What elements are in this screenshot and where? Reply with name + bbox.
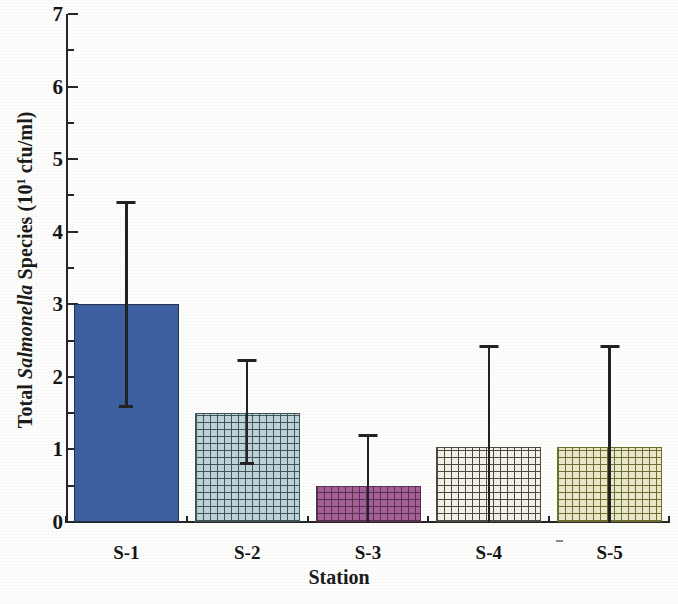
error-bar-stem-s-5 xyxy=(608,345,610,522)
y-tick-minor xyxy=(68,267,74,269)
y-axis-title-post: Species (10 xyxy=(14,185,36,285)
x-tick-minor xyxy=(548,516,550,523)
y-tick-minor xyxy=(68,122,74,124)
x-tick-minor xyxy=(668,516,670,523)
error-bar-stem-s-1 xyxy=(125,201,127,409)
scan-artifact-speck xyxy=(556,540,563,542)
x-tick-label-s-5: S-5 xyxy=(596,542,622,564)
x-tick-minor xyxy=(307,516,309,523)
error-bar-cap-upper-s-3 xyxy=(359,434,378,437)
x-tick-minor xyxy=(186,516,188,523)
x-tick-minor xyxy=(427,516,429,523)
y-tick-label: 2 xyxy=(53,366,64,387)
figure-canvas: Total Salmonella Species (101 cfu/ml) 01… xyxy=(0,0,678,604)
y-tick-label: 6 xyxy=(53,76,64,97)
y-axis-title-pre: Total xyxy=(14,379,36,428)
error-bar-stem-s-4 xyxy=(488,345,490,522)
x-tick-minor xyxy=(65,516,67,523)
y-axis-title-tail: cfu/ml) xyxy=(14,112,36,179)
y-tick-minor xyxy=(68,49,74,51)
y-tick-label: 4 xyxy=(53,221,64,242)
y-tick-label: 1 xyxy=(53,439,64,460)
y-tick-label: 0 xyxy=(53,512,64,533)
y-tick-minor xyxy=(68,194,74,196)
y-tick-label: 5 xyxy=(53,149,64,170)
y-axis-title-exponent: 1 xyxy=(13,179,27,185)
error-bar-cap-lower-s-1 xyxy=(119,405,133,408)
error-bar-cap-upper-s-5 xyxy=(600,345,619,348)
y-tick-major: 7 xyxy=(68,13,78,15)
error-bar-cap-upper-s-1 xyxy=(117,201,136,204)
y-axis-title-container: Total Salmonella Species (101 cfu/ml) xyxy=(2,0,48,540)
x-axis-title: Station xyxy=(0,566,678,589)
y-axis-title-italic: Salmonella xyxy=(14,285,36,379)
error-bar-cap-upper-s-4 xyxy=(479,345,498,348)
error-bar-cap-lower-s-2 xyxy=(240,462,254,465)
y-tick-major: 6 xyxy=(68,86,78,88)
y-tick-major: 4 xyxy=(68,231,78,233)
y-tick-label: 3 xyxy=(53,294,64,315)
x-tick-label-s-2: S-2 xyxy=(234,542,260,564)
y-tick-major: 5 xyxy=(68,158,78,160)
y-axis-title: Total Salmonella Species (101 cfu/ml) xyxy=(13,112,37,429)
x-tick-label-s-4: S-4 xyxy=(476,542,502,564)
error-bar-stem-s-3 xyxy=(367,434,369,522)
y-tick-label: 7 xyxy=(53,4,64,25)
x-tick-label-s-1: S-1 xyxy=(113,542,139,564)
x-tick-label-s-3: S-3 xyxy=(355,542,381,564)
error-bar-stem-s-2 xyxy=(246,359,248,466)
plot-area: 01234567 S-1S-2S-3S-4S-5 xyxy=(66,14,670,522)
error-bar-cap-upper-s-2 xyxy=(238,359,257,362)
